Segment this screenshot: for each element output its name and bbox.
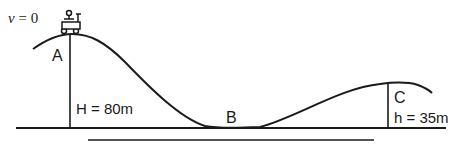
initial-velocity-label: v = 0 (8, 11, 38, 26)
height-C-label: h = 35m (394, 110, 449, 125)
point-A-label: A (52, 48, 63, 64)
point-C-label: C (394, 90, 406, 106)
cart-icon (62, 11, 82, 34)
height-A-label: H = 80m (76, 101, 133, 116)
point-B-label: B (226, 110, 237, 126)
